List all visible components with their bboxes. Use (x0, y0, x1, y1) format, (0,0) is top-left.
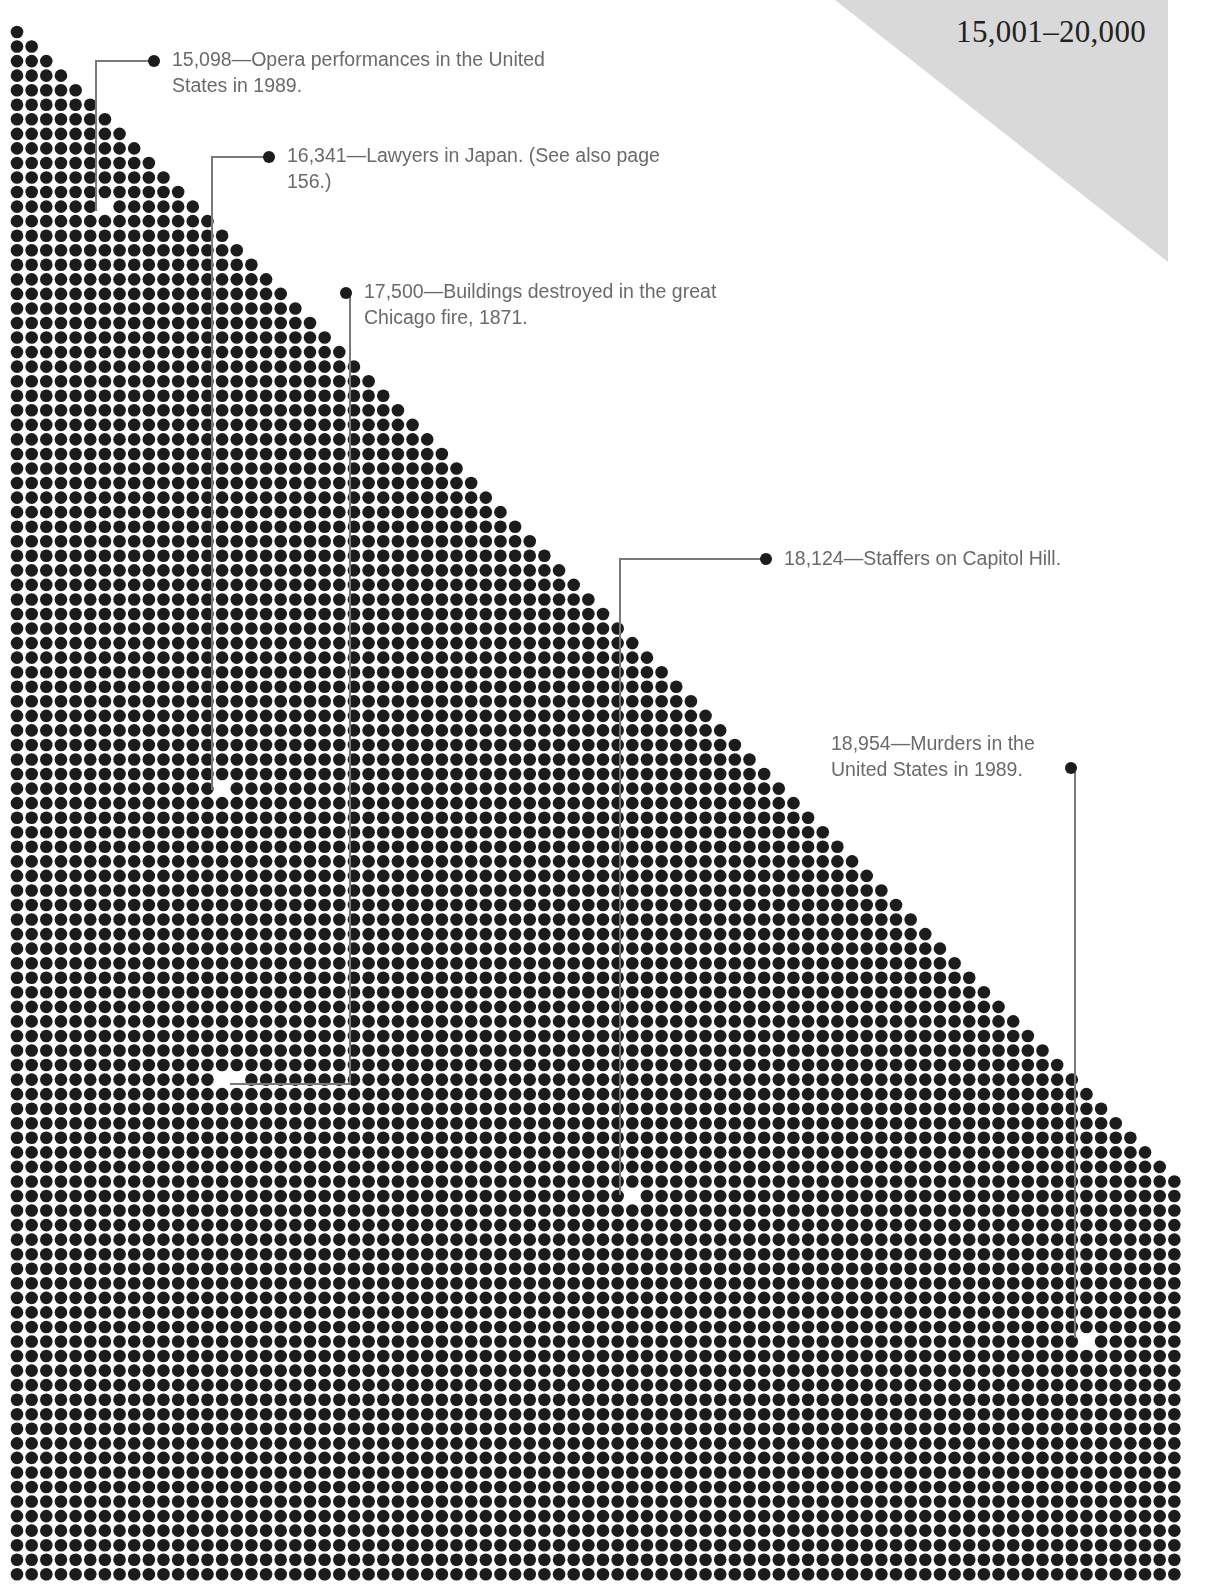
callout-opera-line2: States in 1989. (172, 72, 545, 98)
callout-opera: 15,098—Opera performances in the United … (172, 46, 545, 98)
callout-murders-line2: United States in 1989. (831, 756, 1035, 782)
callout-chicago-fire-line2: Chicago fire, 1871. (364, 304, 716, 330)
callout-murders-line1: 18,954—Murders in the (831, 730, 1035, 756)
callout-lawyers-line1: 16,341—Lawyers in Japan. (See also page (287, 142, 660, 168)
callout-capitol-staffers-line1: 18,124—Staffers on Capitol Hill. (784, 545, 1061, 571)
callout-lawyers-line2: 156.) (287, 168, 660, 194)
callout-murders: 18,954—Murders in the United States in 1… (831, 730, 1035, 782)
dot-grid (0, 0, 1216, 1594)
callout-lawyers: 16,341—Lawyers in Japan. (See also page … (287, 142, 660, 194)
callout-chicago-fire: 17,500—Buildings destroyed in the great … (364, 278, 716, 330)
callout-capitol-staffers: 18,124—Staffers on Capitol Hill. (784, 545, 1061, 571)
callout-opera-line1: 15,098—Opera performances in the United (172, 46, 545, 72)
callout-chicago-fire-line1: 17,500—Buildings destroyed in the great (364, 278, 716, 304)
